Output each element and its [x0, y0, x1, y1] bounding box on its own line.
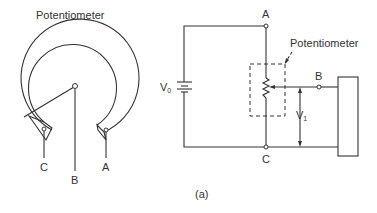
terminal-a-dot — [104, 128, 108, 132]
wire-bottom-left — [184, 92, 266, 147]
node-b — [317, 85, 321, 89]
v1-arrow-up-icon — [298, 87, 302, 93]
outer-track — [21, 19, 139, 132]
battery-icon — [177, 82, 192, 92]
pot-label: Potentiometer — [290, 37, 359, 49]
node-b-label: B — [315, 70, 322, 82]
resistor-icon — [263, 78, 269, 98]
wire-top — [184, 26, 266, 82]
label-c: C — [40, 161, 48, 173]
node-c — [264, 145, 268, 149]
potentiometer-diagram: Potentiometer C B A V0 — [0, 0, 377, 213]
node-a — [264, 24, 268, 28]
output-label: V1 — [296, 109, 307, 122]
terminal-c-dot — [42, 127, 46, 131]
figure-caption: (a) — [195, 188, 208, 200]
label-b: B — [71, 174, 78, 186]
wiper-arrow-icon — [269, 85, 275, 89]
pot-leader-arrow — [285, 58, 289, 64]
v1-arrow-down-icon — [298, 141, 302, 147]
node-c-label: C — [262, 153, 270, 165]
label-a: A — [102, 161, 110, 173]
left-title: Potentiometer — [36, 9, 105, 21]
source-label: V0 — [160, 81, 171, 94]
node-a-label: A — [262, 8, 270, 20]
wiper-arm — [24, 87, 74, 117]
load-device — [338, 77, 358, 156]
potentiometer-box — [250, 64, 285, 116]
terminal-a-tab — [97, 125, 106, 140]
wiper-pivot — [73, 84, 78, 89]
potentiometer-physical: Potentiometer C B A — [21, 9, 139, 186]
circuit-schematic: V0 Potentiometer A C B V1 (a) — [160, 8, 359, 200]
